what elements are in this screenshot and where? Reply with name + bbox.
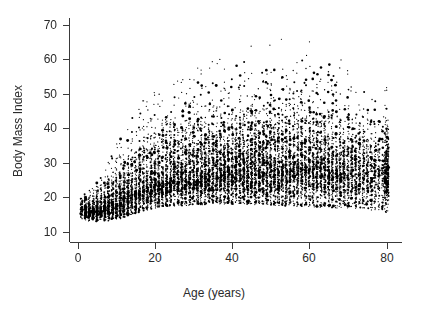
scatter-points-layer [70,18,402,242]
y-tick-10 [63,232,69,233]
scatter-plot-figure: 10203040506070 020406080 Age (years) Bod… [0,0,428,319]
y-tick-30 [63,163,69,164]
y-tick-50 [63,94,69,95]
y-tick-label-60: 60 [31,53,57,65]
y-tick-label-30: 30 [31,157,57,169]
y-tick-40 [63,128,69,129]
y-tick-label-70: 70 [31,19,57,31]
y-tick-60 [63,59,69,60]
x-tick-40 [232,243,233,249]
y-tick-20 [63,197,69,198]
x-axis-title: Age (years) [0,286,428,300]
y-tick-label-10: 10 [31,226,57,238]
x-tick-80 [387,243,388,249]
y-tick-70 [63,25,69,26]
x-axis-line [70,242,402,243]
x-tick-label-60: 60 [294,252,324,264]
y-tick-label-40: 40 [31,122,57,134]
y-axis-line [69,18,70,242]
plot-area [70,18,402,242]
x-tick-label-0: 0 [63,252,93,264]
x-tick-label-20: 20 [140,252,170,264]
y-axis-title: Body Mass Index [11,61,25,201]
x-tick-label-80: 80 [372,252,402,264]
y-tick-label-50: 50 [31,88,57,100]
x-tick-20 [155,243,156,249]
x-tick-label-40: 40 [217,252,247,264]
x-tick-0 [78,243,79,249]
y-tick-label-20: 20 [31,191,57,203]
x-tick-60 [309,243,310,249]
